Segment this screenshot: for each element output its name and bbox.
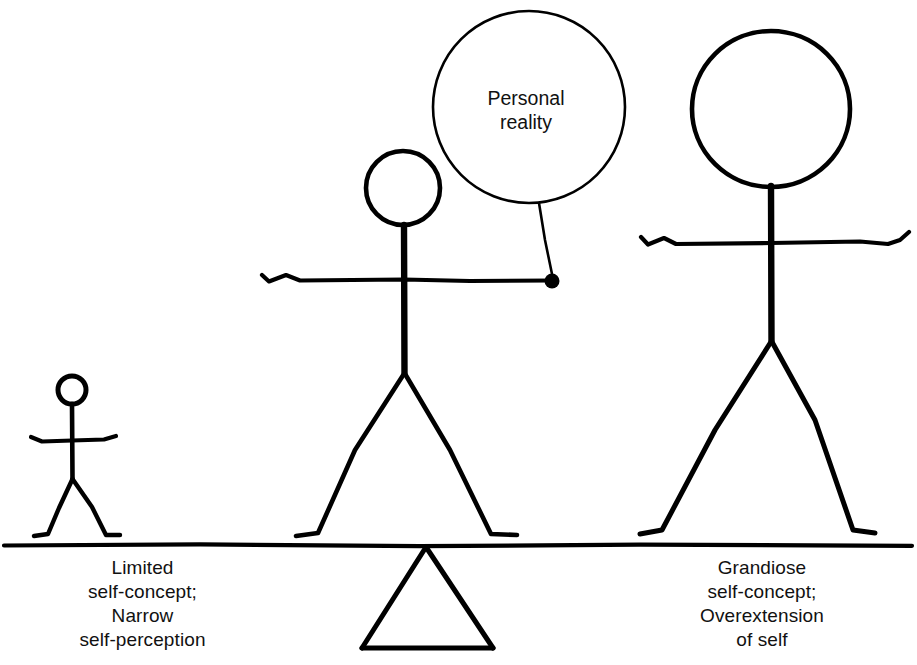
- personal-reality-balloon: Personal reality: [433, 11, 625, 274]
- caption-left: Limited self-concept; Narrow self-percep…: [0, 556, 285, 652]
- middle-figure: [262, 151, 560, 536]
- small-figure: [31, 376, 120, 536]
- large-figure-left-leg: [640, 341, 772, 534]
- diagram-canvas: Personal reality Limited self-concept; N…: [0, 0, 917, 665]
- small-figure-head: [58, 376, 86, 404]
- large-figure-torso: [771, 186, 772, 341]
- plank-group: [4, 544, 912, 546]
- middle-figure-hand-dot: [545, 274, 560, 289]
- large-figure-head: [692, 31, 850, 187]
- middle-figure-torso: [404, 225, 405, 373]
- fulcrum-left-edge: [362, 547, 426, 648]
- balloon-label-line-2: reality: [500, 111, 552, 133]
- balloon-label-line-1: Personal: [488, 87, 565, 109]
- large-figure: [640, 31, 909, 534]
- fulcrum-triangle: [362, 547, 493, 648]
- large-figure-right-leg: [772, 341, 876, 533]
- plank-line: [4, 544, 912, 546]
- caption-right: Grandiose self-concept; Overextension of…: [612, 556, 912, 652]
- middle-figure-left-leg: [296, 373, 405, 536]
- middle-figure-right-leg: [405, 373, 518, 535]
- middle-figure-head: [366, 151, 440, 225]
- large-figure-arms: [641, 232, 909, 245]
- small-figure-right-leg: [73, 479, 121, 535]
- small-figure-left-leg: [34, 479, 73, 536]
- fulcrum-right-edge: [426, 547, 493, 648]
- balloon-string: [539, 203, 552, 274]
